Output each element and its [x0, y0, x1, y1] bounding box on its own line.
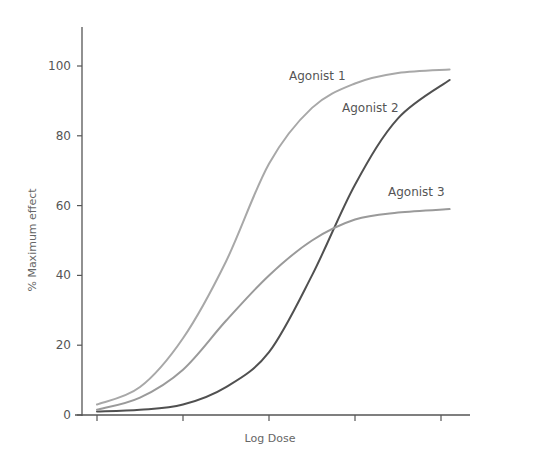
y-tick-label: 40	[56, 268, 71, 282]
series-label-agonist-1: Agonist 1	[289, 69, 346, 83]
series-label-agonist-3: Agonist 3	[388, 185, 445, 199]
y-axis: 020406080100 % Maximum effect	[26, 27, 82, 422]
y-tick-label: 80	[56, 129, 71, 143]
series-label-agonist-2: Agonist 2	[342, 101, 399, 115]
series-line-agonist-2	[97, 80, 450, 412]
y-axis-title: % Maximum effect	[26, 188, 39, 292]
y-tick-label: 60	[56, 199, 71, 213]
y-tick-label: 100	[48, 59, 71, 73]
x-axis: Log Dose	[75, 415, 470, 445]
x-ticks	[97, 415, 441, 421]
y-tick-label: 0	[63, 408, 71, 422]
x-axis-title: Log Dose	[245, 432, 296, 445]
y-tick-label: 20	[56, 338, 71, 352]
y-ticks: 020406080100	[48, 59, 82, 422]
series-group: Agonist 1Agonist 2Agonist 3	[97, 69, 450, 412]
dose-response-chart: 020406080100 % Maximum effect Log Dose A…	[0, 0, 554, 471]
